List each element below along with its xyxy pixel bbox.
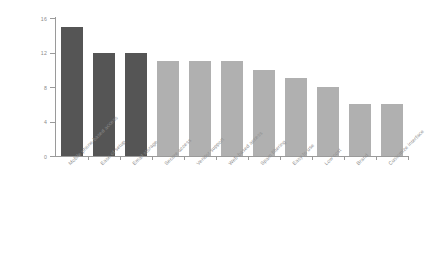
y-axis-tick: 8 [50,87,55,88]
plot-area [56,18,408,156]
y-axis-tick-label: 0 [44,154,47,160]
x-axis-tick [88,156,89,160]
bar-chart-figure: 0481216 Mobile phone-based accessEase of… [0,0,428,258]
bar [125,53,146,157]
bar [61,27,82,156]
y-axis-tick: 12 [50,53,55,54]
x-axis-tick [152,156,153,160]
x-axis-tick [376,156,377,160]
x-axis-tick [344,156,345,160]
bar [285,78,306,156]
y-axis-tick: 16 [50,18,55,19]
y-axis-tick-label: 8 [44,85,47,91]
x-axis-tick [184,156,185,160]
y-axis-tick-label: 12 [41,50,47,56]
y-axis-tick-label: 16 [41,16,47,22]
x-axis-tick [280,156,281,160]
x-axis-tick [312,156,313,160]
x-axis-tick [216,156,217,160]
y-axis-tick-label: 4 [44,119,47,125]
bar [349,104,370,156]
bar [189,61,210,156]
x-axis-tick [408,156,409,160]
x-axis-tick [248,156,249,160]
x-axis-tick [120,156,121,160]
y-axis-tick: 0 [50,156,55,157]
bar [253,70,274,156]
bar [317,87,338,156]
bar [221,61,242,156]
bar [157,61,178,156]
y-axis-tick: 4 [50,122,55,123]
